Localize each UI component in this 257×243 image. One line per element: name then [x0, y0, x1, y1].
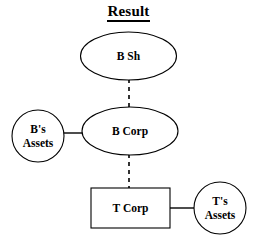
node-b-sh-label: B Sh [117, 50, 141, 62]
node-b-corp[interactable]: B Corp [82, 107, 178, 155]
node-b-assets-label-line2: Assets [23, 137, 54, 149]
diagram-canvas: Result B Sh B's Assets B Corp T Corp [0, 0, 257, 243]
node-b-assets[interactable]: B's Assets [12, 110, 64, 162]
node-t-assets-label-line1: T's [212, 195, 228, 207]
node-b-corp-label: B Corp [112, 125, 148, 138]
node-t-corp[interactable]: T Corp [91, 188, 170, 228]
diagram-svg: B Sh B's Assets B Corp T Corp T's Assets [0, 0, 257, 243]
node-b-sh[interactable]: B Sh [81, 32, 177, 80]
node-t-corp-label: T Corp [113, 202, 149, 215]
node-t-assets-label-line2: Assets [205, 209, 236, 221]
node-t-assets[interactable]: T's Assets [194, 182, 246, 234]
node-b-assets-label-line1: B's [30, 123, 46, 135]
